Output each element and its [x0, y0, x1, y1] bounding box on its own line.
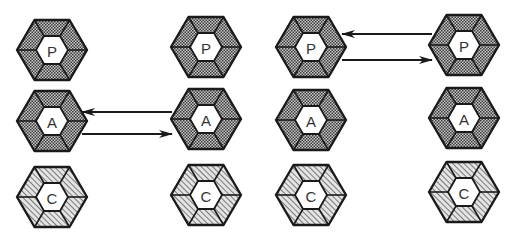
hexagon-node-c: C [171, 165, 241, 225]
hexagon-interaction-diagram: PACPACPACPAC [0, 0, 512, 250]
hexagon-label: C [201, 188, 212, 205]
nodes-layer: PACPACPACPAC [17, 15, 499, 227]
hexagon-label: P [306, 40, 316, 57]
hexagon-node-p: P [17, 20, 87, 80]
hexagon-node-a: A [171, 89, 241, 149]
hexagon-label: P [201, 40, 211, 57]
arrows-layer [82, 34, 432, 134]
hexagon-label: A [459, 111, 469, 128]
hexagon-label: A [47, 114, 57, 131]
hexagon-node-a: A [276, 90, 346, 150]
hexagon-label: A [306, 113, 316, 130]
hexagon-label: C [306, 188, 317, 205]
hexagon-node-p: P [429, 15, 499, 75]
hexagon-node-c: C [17, 167, 87, 227]
hexagon-label: P [47, 43, 57, 60]
hexagon-label: C [47, 190, 58, 207]
hexagon-node-c: C [276, 165, 346, 225]
hexagon-node-a: A [429, 88, 499, 148]
hexagon-node-p: P [171, 17, 241, 77]
hexagon-node-a: A [17, 91, 87, 151]
hexagon-label: A [201, 112, 211, 129]
hexagon-label: P [459, 38, 469, 55]
hexagon-label: C [459, 185, 470, 202]
hexagon-node-p: P [276, 17, 346, 77]
hexagon-node-c: C [429, 162, 499, 222]
